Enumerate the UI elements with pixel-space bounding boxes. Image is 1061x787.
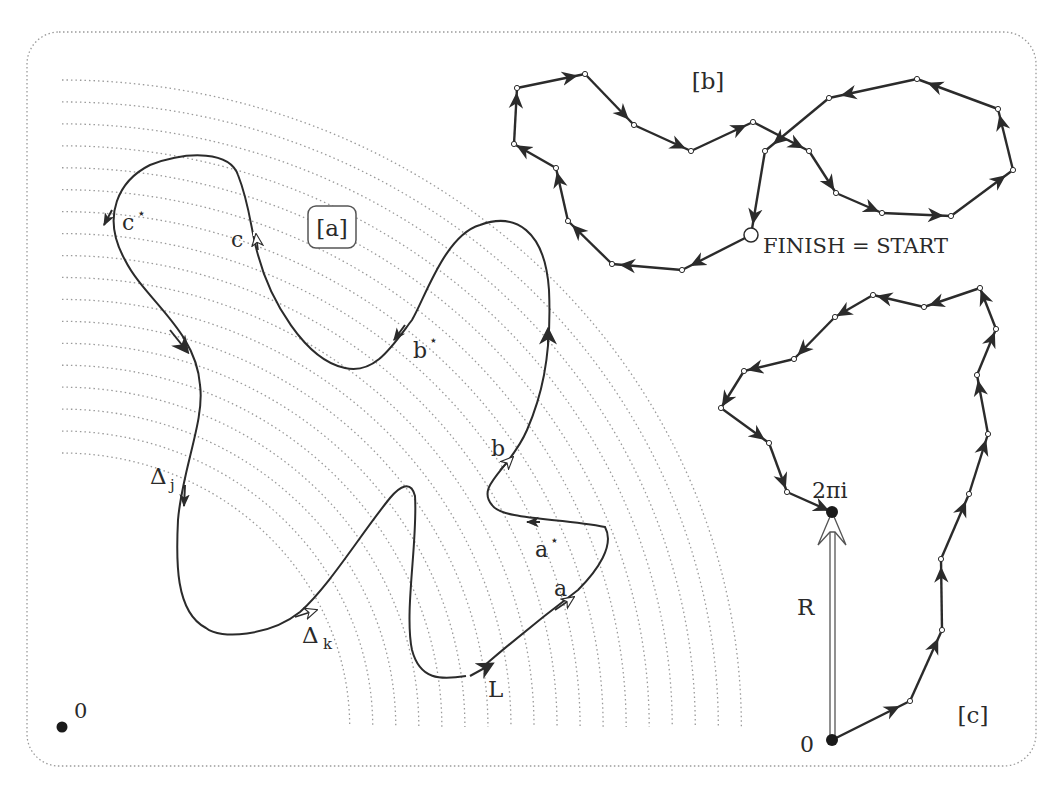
walk-segment xyxy=(835,295,873,317)
walk-segment xyxy=(556,168,568,221)
walk-vertex xyxy=(553,165,558,170)
walk-segment xyxy=(769,443,787,492)
dotted-arc xyxy=(62,256,557,727)
walk-segment xyxy=(980,288,996,329)
arrow-big-top-left xyxy=(170,330,186,350)
target-label-2pi-i: 2πi xyxy=(812,478,848,503)
walk-segment xyxy=(514,144,556,168)
walk-segment xyxy=(691,122,753,151)
label-delta-j: Δ xyxy=(150,463,167,489)
walk-segment xyxy=(612,264,682,270)
walk-segment xyxy=(917,79,998,109)
walk-segment xyxy=(765,98,829,151)
loop-curve-L xyxy=(114,155,608,677)
walk-segment xyxy=(634,125,691,151)
walk-segment xyxy=(794,317,835,359)
walk-segment xyxy=(751,151,765,235)
walk-segment xyxy=(721,371,744,408)
panel-b: FINISH = START [b] xyxy=(511,68,1015,273)
walk-segment xyxy=(882,213,951,216)
dotted-arc xyxy=(62,321,488,727)
panel-c-tag: [c] xyxy=(958,702,989,728)
walk-segment xyxy=(924,288,980,307)
walk-vertex xyxy=(914,76,919,81)
walk-segment xyxy=(832,701,910,740)
walk-vertex xyxy=(766,440,771,445)
walk-vertex xyxy=(993,326,998,331)
walk-segment xyxy=(744,359,794,371)
dotted-arc xyxy=(62,365,442,727)
dotted-arc xyxy=(62,102,718,727)
walk-vertex xyxy=(939,627,944,632)
dotted-arc xyxy=(62,453,350,727)
label-c-star: c xyxy=(122,210,134,235)
panel-a-tag: [a] xyxy=(316,215,348,241)
walk-vertex xyxy=(718,405,723,410)
finish-start-label: FINISH = START xyxy=(763,234,948,258)
walk-vertex xyxy=(826,95,831,100)
finish-start-point xyxy=(744,228,758,242)
dotted-arc xyxy=(62,277,534,727)
dotted-arc xyxy=(62,343,465,727)
walk-vertex xyxy=(938,556,943,561)
label-a: a xyxy=(554,576,567,601)
walk-vertex xyxy=(679,267,684,272)
walk-segment xyxy=(721,408,769,443)
label-b: b xyxy=(491,436,505,461)
origin-point-c xyxy=(826,734,838,746)
label-b-star-mark: ⋆ xyxy=(429,332,438,348)
dotted-arc xyxy=(62,190,626,727)
walk-vertex xyxy=(806,148,811,153)
label-a-star: a xyxy=(535,537,548,562)
panel-c: 2πi 0 R [c] xyxy=(718,285,998,757)
arrow-big-L xyxy=(470,665,490,676)
walk-vertex xyxy=(565,218,570,223)
walk-vertex xyxy=(514,85,519,90)
winding-number-figure: [a] c ⋆ c b ⋆ b a ⋆ a Δ j Δ k L 0 FINISH… xyxy=(0,0,1061,787)
panel-a: [a] c ⋆ c b ⋆ b a ⋆ a Δ j Δ k L 0 xyxy=(57,155,608,732)
walk-vertex xyxy=(609,261,614,266)
walk-vertex xyxy=(582,71,587,76)
arrow-delta-j xyxy=(184,485,185,506)
walk-vertex xyxy=(832,314,837,319)
origin-point-a xyxy=(57,722,68,733)
walk-vertex xyxy=(741,368,746,373)
walk-vertex xyxy=(688,148,693,153)
walk-segment xyxy=(941,559,942,630)
label-L: L xyxy=(488,676,503,702)
figure-frame xyxy=(27,32,1036,766)
arrow-c-star xyxy=(104,210,112,225)
origin-label-a: 0 xyxy=(74,699,87,723)
walk-vertex xyxy=(833,190,838,195)
label-delta-k-sub: k xyxy=(323,635,333,653)
walk-vertex xyxy=(907,698,912,703)
walk-vertex xyxy=(791,356,796,361)
walk-vertex xyxy=(511,141,516,146)
label-a-star-mark: ⋆ xyxy=(550,532,559,548)
dotted-arc xyxy=(62,299,511,727)
walk-segment xyxy=(951,170,1013,216)
walk-vertex xyxy=(977,285,982,290)
walk-segment xyxy=(969,434,988,494)
walk-segment xyxy=(977,329,996,375)
dotted-arc xyxy=(62,431,373,727)
walk-segment xyxy=(873,295,924,307)
walk-segment xyxy=(977,375,988,434)
polygon-walk-c xyxy=(718,285,998,740)
dotted-arc xyxy=(62,387,419,727)
walk-vertex xyxy=(784,489,789,494)
walk-vertex xyxy=(762,148,767,153)
dotted-arc xyxy=(62,80,741,727)
vector-label-R: R xyxy=(797,594,815,620)
dotted-arc xyxy=(62,234,580,727)
walk-vertex xyxy=(870,292,875,297)
walk-segment xyxy=(517,74,585,88)
walk-vertex xyxy=(985,431,990,436)
walk-segment xyxy=(682,235,751,270)
walk-segment xyxy=(568,221,612,264)
walk-segment xyxy=(514,88,517,144)
origin-label-c: 0 xyxy=(800,732,814,757)
walk-segment xyxy=(941,494,969,559)
dotted-arc xyxy=(62,212,603,727)
label-delta-j-sub: j xyxy=(168,476,175,494)
